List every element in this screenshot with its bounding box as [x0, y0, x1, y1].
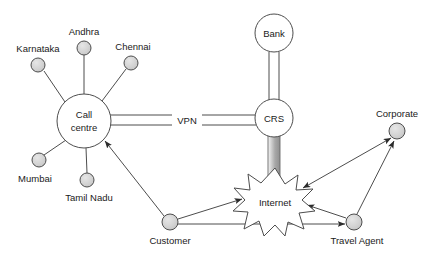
mumbai-dot — [32, 153, 46, 167]
node-customer[interactable]: Customer — [149, 214, 190, 246]
network-diagram: Internet Call centre Bank CRS Karnataka … — [0, 0, 436, 257]
link-tamil-nadu-call-centre — [86, 148, 87, 173]
link-bank-crs — [269, 52, 279, 100]
link-mumbai-call-centre — [44, 140, 66, 155]
mumbai-label: Mumbai — [18, 173, 52, 184]
link-customer-internet — [178, 199, 242, 219]
node-internet[interactable]: Internet — [233, 168, 315, 236]
corporate-dot — [389, 123, 405, 139]
node-tamil-nadu[interactable]: Tamil Nadu — [65, 173, 113, 203]
tamil-nadu-label: Tamil Nadu — [65, 192, 113, 203]
customer-dot — [162, 214, 178, 230]
link-chennai-call-centre — [102, 69, 126, 101]
node-mumbai[interactable]: Mumbai — [18, 153, 52, 184]
crs-label: CRS — [264, 113, 284, 124]
call-centre-label-line2: centre — [71, 122, 97, 133]
chennai-label: Chennai — [115, 41, 150, 52]
tamil-nadu-dot — [80, 173, 94, 187]
node-bank[interactable]: Bank — [255, 14, 293, 52]
link-travel-agent-corporate — [357, 141, 394, 214]
bank-label: Bank — [263, 28, 285, 39]
node-karnataka[interactable]: Karnataka — [16, 43, 60, 72]
corporate-label: Corporate — [376, 108, 418, 119]
link-internet-corporate — [303, 138, 391, 188]
diagram-canvas: Internet Call centre Bank CRS Karnataka … — [0, 0, 436, 257]
link-karnataka-call-centre — [44, 71, 65, 102]
call-centre-label-line1: Call — [76, 109, 92, 120]
node-travel-agent[interactable]: Travel Agent — [331, 214, 384, 246]
karnataka-dot — [31, 58, 45, 72]
travel-agent-label: Travel Agent — [331, 235, 384, 246]
andhra-dot — [77, 41, 91, 55]
node-crs[interactable]: CRS — [255, 99, 293, 137]
internet-label: Internet — [259, 197, 292, 208]
travel-agent-dot — [346, 214, 362, 230]
link-customer-call-centre — [105, 141, 164, 216]
andhra-label: Andhra — [69, 26, 100, 37]
customer-label: Customer — [149, 235, 190, 246]
node-call-centre[interactable]: Call centre — [57, 94, 111, 148]
node-corporate[interactable]: Corporate — [376, 108, 418, 139]
link-label-vpn-group: VPN — [172, 112, 202, 128]
karnataka-label: Karnataka — [16, 43, 60, 54]
call-centre-circle — [57, 94, 111, 148]
chennai-dot — [124, 56, 138, 70]
vpn-label: VPN — [177, 115, 197, 126]
node-chennai[interactable]: Chennai — [115, 41, 150, 70]
node-andhra[interactable]: Andhra — [69, 26, 100, 55]
